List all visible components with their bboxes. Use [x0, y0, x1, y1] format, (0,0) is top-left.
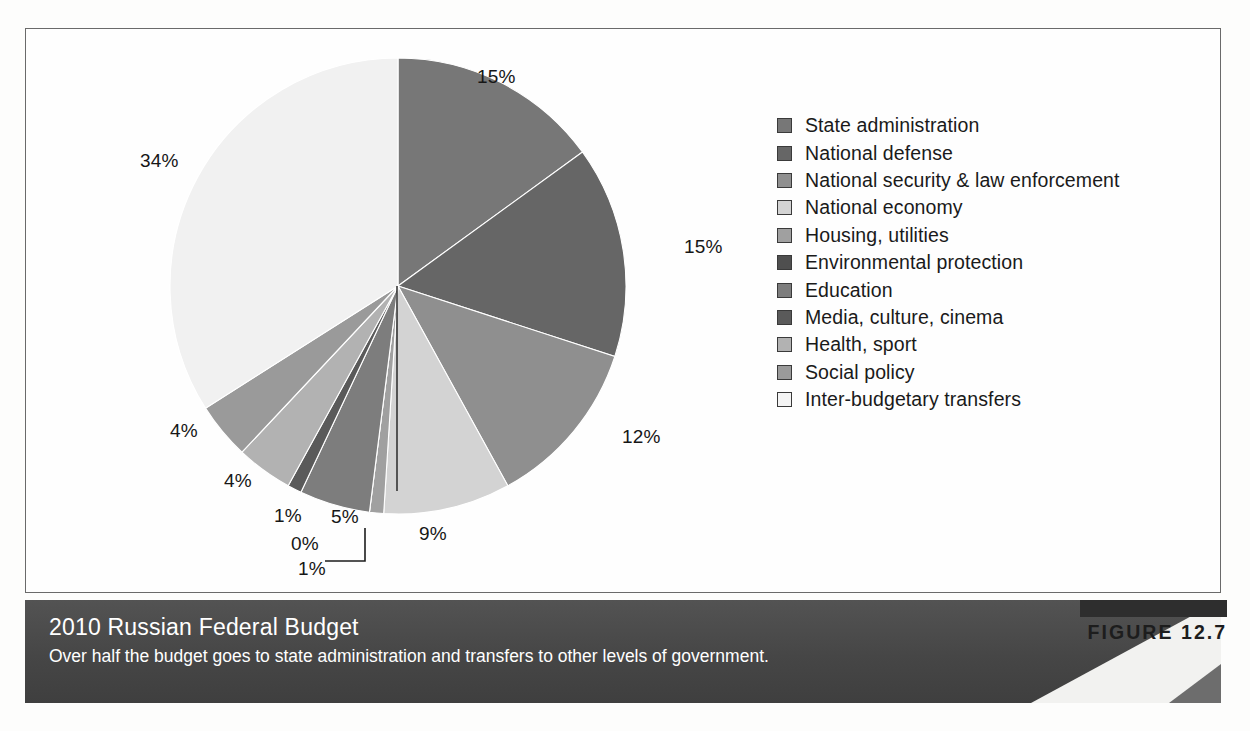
legend-item-label: Housing, utilities: [805, 224, 949, 247]
caption-band: 2010 Russian Federal Budget Over half th…: [25, 600, 1221, 703]
leader-line-1pct: [325, 528, 365, 561]
legend-item: Education: [777, 276, 1197, 303]
legend-swatch-icon: [777, 146, 792, 161]
legend-swatch-icon: [777, 228, 792, 243]
legend-swatch-icon: [777, 255, 792, 270]
legend-item: Media, culture, cinema: [777, 304, 1197, 331]
legend-item-label: Education: [805, 279, 893, 302]
figure-tag-label: FIGURE 12.7: [1087, 620, 1227, 644]
legend-swatch-icon: [777, 392, 792, 407]
pie-chart: 15%15%12%9%0%1%5%1%4%4%34% State adminis…: [25, 28, 1221, 593]
legend-item: State administration: [777, 112, 1197, 139]
legend-item-label: Media, culture, cinema: [805, 306, 1003, 329]
pie-slices: [170, 58, 626, 514]
legend-item: Housing, utilities: [777, 222, 1197, 249]
legend-item: Environmental protection: [777, 249, 1197, 276]
legend-item-label: Environmental protection: [805, 251, 1023, 274]
legend-item: Health, sport: [777, 331, 1197, 358]
pie-percentage-label: 15%: [477, 66, 516, 88]
legend-item-label: National security & law enforcement: [805, 169, 1120, 192]
legend-item-label: State administration: [805, 114, 979, 137]
figure-caption: Over half the budget goes to state admin…: [49, 645, 769, 668]
legend-swatch-icon: [777, 310, 792, 325]
legend-item-label: National defense: [805, 142, 953, 165]
legend-item-label: Health, sport: [805, 333, 917, 356]
figure-page: 15%15%12%9%0%1%5%1%4%4%34% State adminis…: [0, 0, 1250, 731]
caption-text-group: 2010 Russian Federal Budget Over half th…: [49, 613, 769, 668]
legend-item: National security & law enforcement: [777, 167, 1197, 194]
pie-percentage-label: 12%: [622, 426, 661, 448]
pie-percentage-label: 34%: [140, 150, 179, 172]
legend-swatch-icon: [777, 118, 792, 133]
legend-item-label: Inter-budgetary transfers: [805, 388, 1021, 411]
legend-swatch-icon: [777, 365, 792, 380]
pie-percentage-label: 9%: [419, 523, 447, 545]
pie-percentage-label: 0%: [291, 533, 319, 555]
legend-item: Inter-budgetary transfers: [777, 386, 1197, 413]
legend-item: National defense: [777, 139, 1197, 166]
pie-percentage-label: 1%: [298, 558, 326, 580]
legend-swatch-icon: [777, 283, 792, 298]
figure-title: 2010 Russian Federal Budget: [49, 613, 769, 642]
pie-percentage-label: 4%: [170, 420, 198, 442]
pie-percentage-label: 1%: [274, 505, 302, 527]
chart-legend: State administrationNational defenseNati…: [777, 112, 1197, 413]
legend-swatch-icon: [777, 200, 792, 215]
legend-swatch-icon: [777, 337, 792, 352]
pie-percentage-label: 5%: [331, 506, 359, 528]
legend-item: Social policy: [777, 359, 1197, 386]
pie-percentage-label: 4%: [224, 470, 252, 492]
pie-percentage-label: 15%: [684, 236, 723, 258]
legend-item: National economy: [777, 194, 1197, 221]
legend-swatch-icon: [777, 173, 792, 188]
legend-item-label: Social policy: [805, 361, 915, 384]
legend-item-label: National economy: [805, 196, 963, 219]
figure-tag-bar: [1080, 600, 1227, 617]
